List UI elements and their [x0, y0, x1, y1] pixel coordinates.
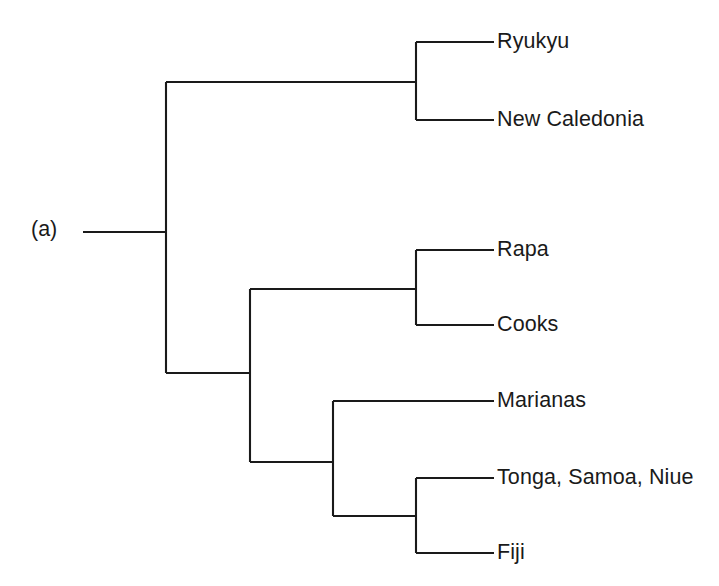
phylogenetic-tree-figure: (a) Ryukyu New Caledonia Rapa Cooks Mari…	[0, 0, 719, 586]
tip-label-tonga-samoa-niue: Tonga, Samoa, Niue	[497, 467, 694, 489]
tip-label-ryukyu: Ryukyu	[497, 31, 569, 53]
tree-line-group	[83, 42, 494, 553]
tip-label-marianas: Marianas	[497, 390, 586, 412]
tip-label-new-caledonia: New Caledonia	[497, 109, 644, 131]
tip-label-rapa: Rapa	[497, 239, 549, 261]
panel-label: (a)	[31, 219, 57, 241]
tree-branches-svg	[0, 0, 719, 586]
tip-label-cooks: Cooks	[497, 314, 558, 336]
tip-label-fiji: Fiji	[497, 542, 525, 564]
